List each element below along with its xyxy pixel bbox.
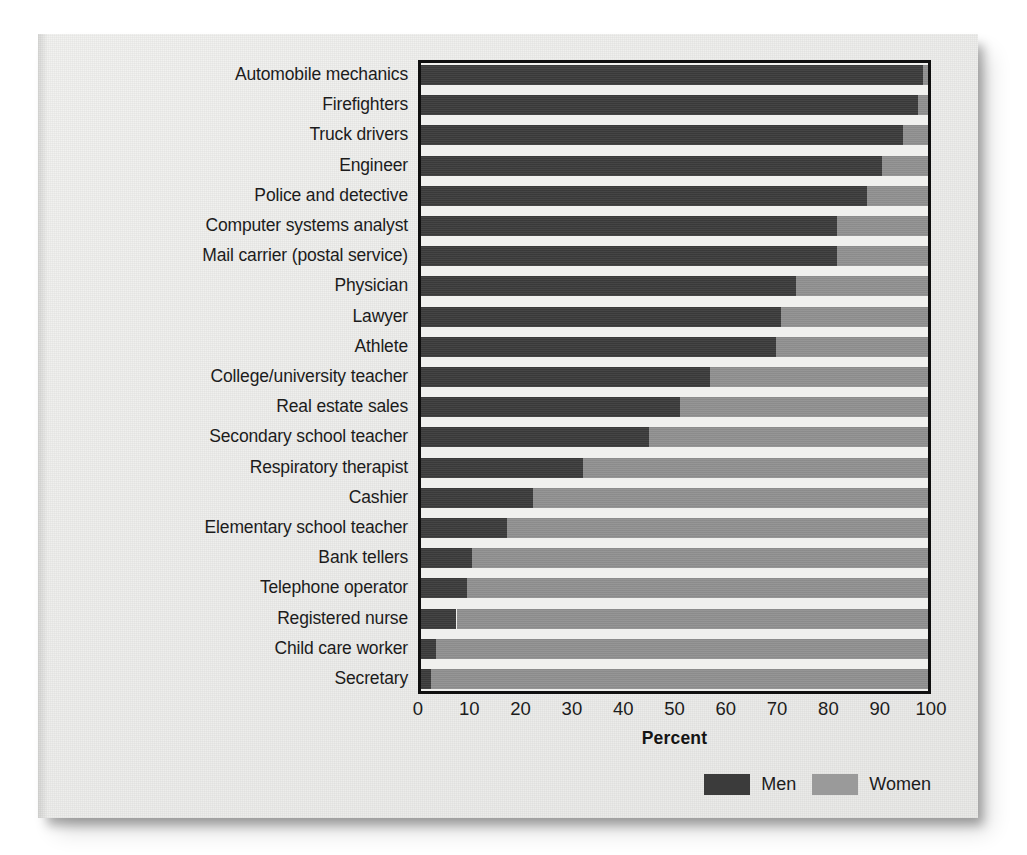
category-label: Engineer xyxy=(160,155,408,175)
table-row xyxy=(421,125,928,145)
bar-segment-women xyxy=(781,307,928,327)
bar-segment-women xyxy=(796,276,928,296)
bar-segment-men xyxy=(421,65,923,85)
category-label: College/university teacher xyxy=(160,366,408,386)
bar-segment-men xyxy=(421,488,533,508)
x-tick-label: 0 xyxy=(413,698,423,720)
bar-segment-women xyxy=(649,427,928,447)
bar-segment-men xyxy=(421,95,918,115)
x-tick-label: 50 xyxy=(664,698,685,720)
category-label: Athlete xyxy=(160,336,408,356)
bar-segment-men xyxy=(421,246,837,266)
bar-segment-men xyxy=(421,337,776,357)
category-label: Police and detective xyxy=(160,185,408,205)
legend-swatch-icon xyxy=(704,774,750,795)
x-tick-label: 60 xyxy=(716,698,737,720)
x-axis-tick-labels: 0102030405060708090100 xyxy=(418,698,931,724)
table-row xyxy=(421,337,928,357)
chart-legend: MenWomen xyxy=(638,770,931,798)
bar-segment-men xyxy=(421,276,796,296)
table-row xyxy=(421,367,928,387)
table-row xyxy=(421,65,928,85)
bar-segment-women xyxy=(918,95,928,115)
bar-segment-men xyxy=(421,578,467,598)
plot-area xyxy=(418,60,931,694)
table-row xyxy=(421,276,928,296)
bar-segment-women xyxy=(467,578,928,598)
category-label: Registered nurse xyxy=(160,608,408,628)
x-tick-label: 10 xyxy=(459,698,480,720)
table-row xyxy=(421,246,928,266)
legend-swatch-icon xyxy=(812,774,858,795)
bar-segment-men xyxy=(421,548,472,568)
bar-segment-women xyxy=(837,216,928,236)
bar-segment-men xyxy=(421,669,431,689)
bar-segment-men xyxy=(421,156,882,176)
legend-label: Men xyxy=(761,774,796,795)
bar-segment-women xyxy=(457,609,929,629)
table-row xyxy=(421,458,928,478)
category-label: Secondary school teacher xyxy=(160,426,408,446)
bar-segment-men xyxy=(421,367,710,387)
legend-item: Men xyxy=(704,774,796,795)
bar-segment-women xyxy=(583,458,928,478)
bar-segment-women xyxy=(882,156,928,176)
table-row xyxy=(421,518,928,538)
bar-segment-men xyxy=(421,458,583,478)
table-row xyxy=(421,397,928,417)
bar-segment-women xyxy=(436,639,928,659)
bar-segment-women xyxy=(533,488,928,508)
category-label: Physician xyxy=(160,275,408,295)
category-label: Automobile mechanics xyxy=(160,64,408,84)
table-row xyxy=(421,609,928,629)
category-label: Mail carrier (postal service) xyxy=(160,245,408,265)
table-row xyxy=(421,156,928,176)
category-label: Real estate sales xyxy=(160,396,408,416)
category-label: Telephone operator xyxy=(160,577,408,597)
category-label: Bank tellers xyxy=(160,547,408,567)
bar-segment-women xyxy=(472,548,928,568)
bar-segment-women xyxy=(680,397,928,417)
bars-container xyxy=(421,63,928,691)
category-label: Lawyer xyxy=(160,306,408,326)
table-row xyxy=(421,216,928,236)
category-axis-labels: Automobile mechanicsFirefightersTruck dr… xyxy=(160,62,408,692)
bar-segment-women xyxy=(867,186,928,206)
bar-segment-men xyxy=(421,427,649,447)
table-row xyxy=(421,427,928,447)
bar-segment-men xyxy=(421,397,680,417)
bar-segment-women xyxy=(431,669,928,689)
table-row xyxy=(421,95,928,115)
table-row xyxy=(421,578,928,598)
category-label: Elementary school teacher xyxy=(160,517,408,537)
category-label: Respiratory therapist xyxy=(160,457,408,477)
table-row xyxy=(421,669,928,689)
category-label: Computer systems analyst xyxy=(160,215,408,235)
scanned-page-sheet: Automobile mechanicsFirefightersTruck dr… xyxy=(38,34,978,818)
bar-segment-men xyxy=(421,307,781,327)
table-row xyxy=(421,307,928,327)
table-row xyxy=(421,186,928,206)
bar-segment-men xyxy=(421,609,456,629)
bar-segment-women xyxy=(923,65,928,85)
bar-segment-women xyxy=(837,246,928,266)
category-label: Truck drivers xyxy=(160,124,408,144)
table-row xyxy=(421,639,928,659)
x-tick-label: 30 xyxy=(562,698,583,720)
bar-segment-men xyxy=(421,216,837,236)
x-tick-label: 100 xyxy=(916,698,947,720)
x-tick-label: 40 xyxy=(613,698,634,720)
bar-segment-women xyxy=(776,337,928,357)
legend-label: Women xyxy=(869,774,931,795)
bar-segment-women xyxy=(710,367,928,387)
bar-segment-women xyxy=(903,125,928,145)
table-row xyxy=(421,488,928,508)
bar-segment-men xyxy=(421,186,867,206)
bar-segment-men xyxy=(421,518,507,538)
x-tick-label: 80 xyxy=(818,698,839,720)
x-tick-label: 70 xyxy=(767,698,788,720)
category-label: Child care worker xyxy=(160,638,408,658)
bar-segment-women xyxy=(507,518,928,538)
bar-segment-men xyxy=(421,639,436,659)
x-axis-title: Percent xyxy=(418,728,931,749)
